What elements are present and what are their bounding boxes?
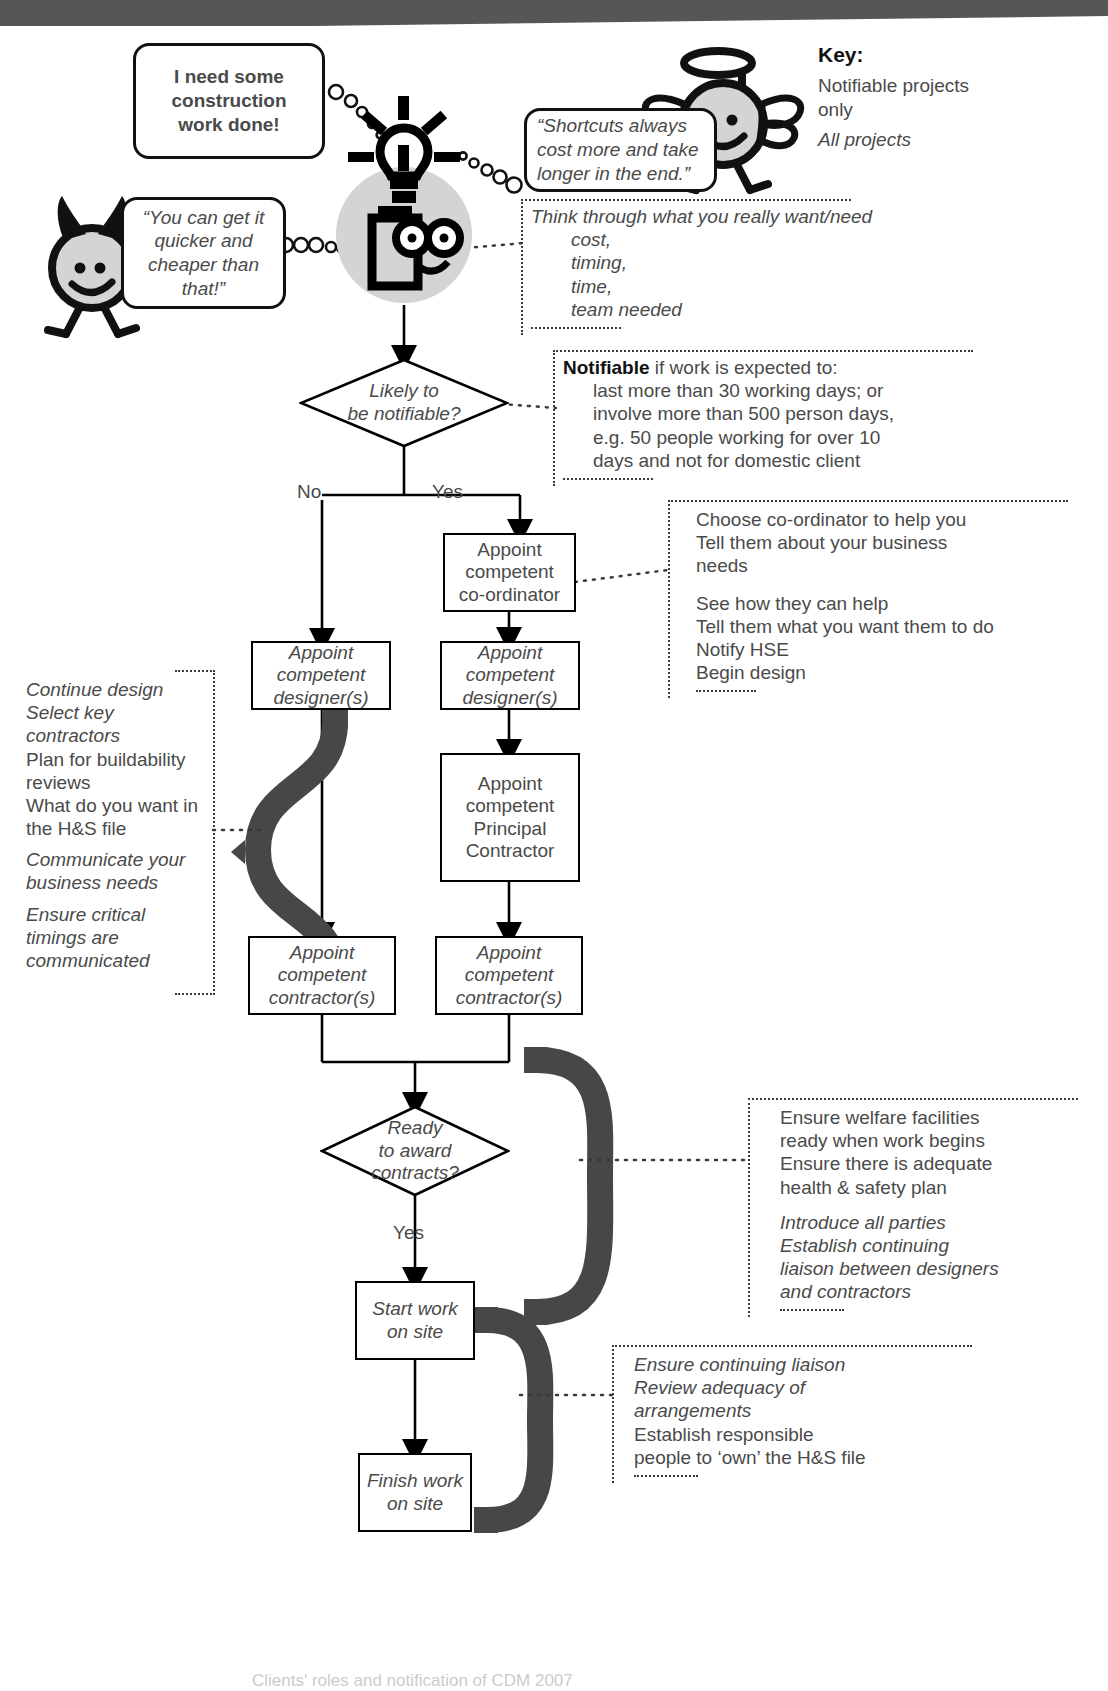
anno-line: Select key xyxy=(26,701,212,724)
annotation-notifiable: Notifiable if work is expected to: last … xyxy=(553,350,973,486)
box-appoint-designer-left[interactable]: Appoint competent designer(s) xyxy=(251,641,391,710)
decision-label: Ready to award contracts? xyxy=(320,1105,510,1197)
box-appoint-designer-right[interactable]: Appoint competent designer(s) xyxy=(440,641,580,710)
anno-line: Tell them what you want them to do xyxy=(696,615,1068,638)
box-appoint-principal-contractor[interactable]: Appoint competent Principal Contractor xyxy=(440,753,580,882)
anno-line: Plan for buildability xyxy=(26,748,212,771)
anno-line: the H&S file xyxy=(26,817,212,840)
branch-label-yes: Yes xyxy=(432,481,463,503)
branch-label-no: No xyxy=(297,481,321,503)
decision-likely-notifiable[interactable]: Likely to be notifiable? xyxy=(299,358,509,448)
box-appoint-contractor-left[interactable]: Appoint competent contractor(s) xyxy=(248,936,396,1015)
anno-line: involve more than 500 person days, xyxy=(563,402,973,425)
client-speech-bubble: I need some construction work done! xyxy=(133,43,325,159)
anno-line: people to ‘own’ the H&S file xyxy=(634,1446,972,1469)
anno-line: cost, xyxy=(531,228,851,251)
anno-line: See how they can help xyxy=(696,592,1068,615)
anno-line: reviews xyxy=(26,771,212,794)
anno-line: Establish continuing xyxy=(780,1234,1078,1257)
anno-line: and contractors xyxy=(780,1280,1078,1303)
anno-line: last more than 30 working days; or xyxy=(563,379,973,402)
lightbulb-icon xyxy=(348,96,460,203)
anno-line: Notify HSE xyxy=(696,638,1068,661)
header-bar xyxy=(0,0,1108,26)
notifiable-bold-lead: Notifiable xyxy=(563,357,650,378)
anno-line: arrangements xyxy=(634,1399,972,1422)
anno-line: What do you want in xyxy=(26,794,212,817)
annotation-welfare: Ensure welfare facilities ready when wor… xyxy=(748,1098,1078,1317)
anno-line: time, xyxy=(531,275,851,298)
key-all-projects-label: All projects xyxy=(818,128,1068,152)
annotation-liaison: Ensure continuing liaison Review adequac… xyxy=(612,1345,972,1483)
anno-bracket-side xyxy=(213,670,217,995)
client-face-icon xyxy=(372,206,460,286)
anno-line: Begin design xyxy=(696,661,1068,684)
anno-line: Ensure continuing liaison xyxy=(634,1353,972,1376)
anno-line: Review adequacy of xyxy=(634,1376,972,1399)
anno-line: timing, xyxy=(531,251,851,274)
decision-label: Likely to be notifiable? xyxy=(299,358,509,448)
anno-line: Choose co-ordinator to help you xyxy=(696,508,1068,531)
anno-bracket-top xyxy=(175,670,215,674)
anno-line: Tell them about your business xyxy=(696,531,1068,554)
anno-line: liaison between designers xyxy=(780,1257,1078,1280)
page-caption: Clients' roles and notification of CDM 2… xyxy=(252,1671,573,1691)
key-legend: Key: Notifiable projects only All projec… xyxy=(818,42,1068,152)
anno-line: e.g. 50 people working for over 10 xyxy=(563,426,973,449)
anno-line: business needs xyxy=(26,871,212,894)
angel-speech-bubble: “Shortcuts always cost more and take lon… xyxy=(524,108,717,192)
anno-line: team needed xyxy=(531,298,851,321)
annotation-designer-duties: Continue design Select key contractors P… xyxy=(26,678,212,972)
anno-line: ready when work begins xyxy=(780,1129,1078,1152)
anno-line: Think through what you really want/need xyxy=(531,205,851,228)
box-appoint-contractor-right[interactable]: Appoint competent contractor(s) xyxy=(435,936,583,1015)
anno-bracket-bottom xyxy=(175,993,215,997)
anno-line: health & safety plan xyxy=(780,1176,1078,1199)
notifiable-lead-rest: if work is expected to: xyxy=(650,357,838,378)
decision-ready-to-award[interactable]: Ready to award contracts? xyxy=(320,1105,510,1197)
box-finish-work-on-site[interactable]: Finish work on site xyxy=(358,1453,472,1532)
anno-line: Communicate your xyxy=(26,848,212,871)
anno-line: timings are xyxy=(26,926,212,949)
key-notifiable-label: Notifiable projects only xyxy=(818,74,1068,122)
box-appoint-coordinator[interactable]: Appoint competent co-ordinator xyxy=(443,533,576,612)
anno-line: Introduce all parties xyxy=(780,1211,1078,1234)
anno-line: Ensure there is adequate xyxy=(780,1152,1078,1175)
anno-line: Ensure critical xyxy=(26,903,212,926)
anno-line: days and not for domestic client xyxy=(563,449,973,472)
anno-line: contractors xyxy=(26,724,212,747)
anno-line: Ensure welfare facilities xyxy=(780,1106,1078,1129)
box-start-work-on-site[interactable]: Start work on site xyxy=(355,1281,475,1360)
key-title: Key: xyxy=(818,42,1068,68)
devil-speech-bubble: “You can get it quicker and cheaper than… xyxy=(121,197,286,309)
branch-label-yes-2: Yes xyxy=(393,1222,424,1244)
anno-line: Establish responsible xyxy=(634,1423,972,1446)
anno-line: needs xyxy=(696,554,1068,577)
client-head-circle xyxy=(336,167,472,303)
anno-line: communicated xyxy=(26,949,212,972)
annotation-think-through: Think through what you really want/need … xyxy=(521,199,851,335)
anno-line: Continue design xyxy=(26,678,212,701)
annotation-coordinator: Choose co-ordinator to help you Tell the… xyxy=(668,500,1068,698)
